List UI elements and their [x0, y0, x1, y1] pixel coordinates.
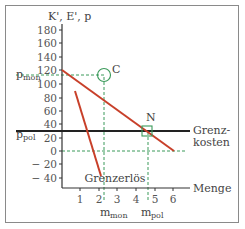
grenzkosten-label-line2: kosten: [193, 136, 230, 149]
p-pol-sub: pol: [23, 133, 36, 142]
y-tick-0: 0: [50, 145, 57, 157]
y-tick-160: 160: [37, 37, 57, 49]
x-tick-labels: 1 2 3 4 5 6: [77, 193, 177, 205]
y-tick-labels: 180 160 140 120 100 80 60 40 20 0 − 20 −…: [32, 24, 58, 184]
y-axis-title: K', E', p: [48, 10, 91, 23]
x-tick-6: 6: [170, 193, 177, 205]
m-pol-label: m pol: [141, 206, 164, 220]
y-tick-40: 40: [44, 118, 57, 130]
grenzerloes-label: Grenzerlös: [85, 172, 146, 185]
x-tick-4: 4: [133, 193, 140, 205]
x-tick-3: 3: [114, 193, 121, 205]
demand-line: [62, 70, 174, 151]
y-tick-80: 80: [44, 92, 57, 104]
y-tick-180: 180: [37, 24, 57, 36]
p-pol-main: p: [16, 128, 23, 141]
y-tick-minus40: − 40: [32, 172, 58, 184]
grenzerloes-line: [75, 91, 101, 176]
m-mon-label: m mon: [100, 206, 128, 220]
point-c-label: C: [112, 63, 120, 76]
m-pol-sub: pol: [151, 211, 164, 220]
p-mon-sub: mon: [23, 73, 41, 82]
point-n-label: N: [146, 111, 156, 124]
y-tick-140: 140: [37, 51, 57, 63]
x-axis-title: Menge: [193, 182, 231, 195]
x-tick-2: 2: [96, 193, 103, 205]
y-tick-minus20: − 20: [32, 158, 58, 170]
axes: [62, 24, 190, 188]
x-tick-5: 5: [152, 193, 159, 205]
x-tick-1: 1: [77, 193, 84, 205]
p-mon-main: p: [16, 68, 23, 81]
m-mon-sub: mon: [110, 211, 128, 220]
y-tick-20: 20: [44, 132, 57, 144]
y-tick-60: 60: [44, 105, 57, 117]
chart-svg: 180 160 140 120 100 80 60 40 20 0 − 20 −…: [0, 0, 245, 229]
